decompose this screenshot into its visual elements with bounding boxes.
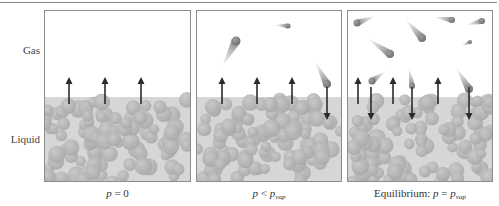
gas-molecule: [456, 67, 473, 93]
gas-molecule: [434, 17, 455, 23]
liquid-molecule: [469, 132, 482, 145]
liquid-molecule: [263, 119, 281, 137]
liquid-molecule: [261, 141, 271, 151]
liquid-molecule: [270, 152, 281, 163]
liquid-molecule: [392, 126, 402, 136]
liquid-molecule: [133, 111, 147, 125]
liquid-molecule: [405, 123, 417, 135]
gas-molecule: [409, 67, 415, 89]
liquid-molecule: [367, 101, 380, 114]
liquid-molecule: [401, 105, 416, 120]
gas-molecule: [367, 38, 394, 58]
liquid-molecule: [247, 126, 258, 137]
liquid-molecule: [387, 163, 403, 179]
panel-p-zero: [44, 10, 191, 182]
liquid-molecule: [149, 124, 159, 134]
liquid-molecule: [263, 97, 278, 112]
liquid-molecule: [399, 94, 410, 105]
liquid-molecule: [120, 117, 132, 129]
liquid-molecule: [93, 94, 110, 111]
gas-molecule: [354, 16, 377, 27]
liquid-molecule: [308, 97, 323, 112]
liquid-molecule: [472, 96, 483, 107]
top-rule: [0, 2, 497, 3]
liquid-molecule: [221, 118, 237, 134]
liquid-molecule: [352, 115, 364, 127]
gas-molecule: [405, 19, 426, 42]
liquid-molecule: [309, 110, 325, 126]
liquid-molecule: [107, 132, 121, 146]
liquid-molecule: [205, 99, 221, 115]
liquid-molecule: [419, 165, 431, 177]
gas-molecule: [466, 18, 485, 25]
liquid-molecule: [214, 158, 226, 170]
liquid-molecule: [109, 112, 121, 124]
caption-equilibrium: Equilibrium: p = pvap: [347, 187, 493, 201]
caption-p-zero: p = 0: [44, 187, 191, 199]
liquid-molecule: [85, 164, 101, 180]
liquid-molecule: [82, 110, 94, 122]
liquid-molecule: [242, 114, 253, 125]
gas-molecule: [369, 71, 387, 85]
liquid-molecule: [438, 124, 450, 136]
panel-p-less-than-vap: [196, 10, 342, 182]
liquid-region: [45, 92, 190, 181]
gas-molecule: [274, 24, 291, 29]
liquid-molecule: [172, 163, 185, 176]
liquid-molecule: [57, 117, 70, 130]
liquid-molecule: [123, 158, 136, 171]
liquid-molecule: [153, 100, 167, 114]
liquid-molecule: [314, 149, 330, 165]
liquid-molecule: [48, 146, 65, 163]
liquid-molecule: [323, 117, 334, 128]
liquid-molecule: [416, 145, 428, 157]
liquid-molecule: [420, 95, 436, 111]
gas-molecule: [315, 61, 331, 88]
liquid-molecule: [284, 123, 301, 140]
liquid-molecule: [404, 139, 415, 150]
liquid-molecule: [476, 148, 486, 158]
liquid-molecule: [291, 149, 307, 165]
liquid-molecule: [425, 112, 439, 126]
gas-molecule: [461, 40, 472, 46]
liquid-molecule: [197, 122, 211, 136]
liquid-molecule: [436, 167, 450, 181]
liquid-molecule: [260, 164, 270, 174]
liquid-label: Liquid: [0, 133, 40, 145]
liquid-molecule: [451, 115, 463, 127]
panel-equilibrium: [347, 10, 493, 182]
liquid-region: [197, 93, 341, 181]
liquid-molecule: [295, 101, 309, 115]
gas-label: Gas: [0, 44, 40, 56]
liquid-molecule: [245, 143, 258, 156]
liquid-molecule: [164, 124, 181, 141]
liquid-molecule: [163, 139, 179, 155]
gas-molecule: [222, 37, 241, 68]
caption-p-less-than-vap: p < pvap: [196, 187, 342, 201]
liquid-region: [348, 93, 492, 181]
liquid-molecule: [134, 157, 152, 175]
